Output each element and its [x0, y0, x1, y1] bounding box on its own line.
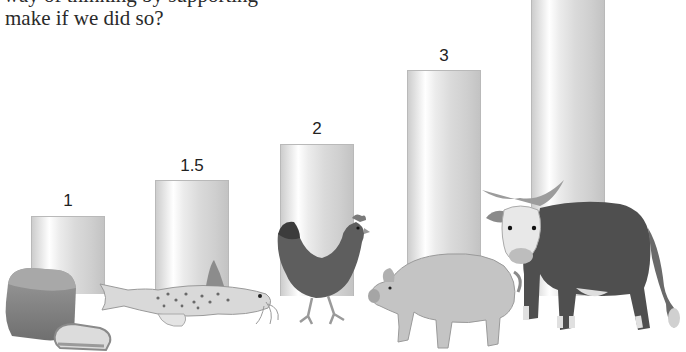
catfish-icon	[98, 258, 283, 330]
bar-value-label: 1	[31, 192, 105, 210]
chicken-icon	[272, 208, 372, 330]
bar-value-label: 2	[280, 120, 354, 138]
question-text: make if we did so?	[5, 6, 164, 30]
bar-value-label: 3	[407, 47, 481, 65]
bar-value-label: 1.5	[155, 157, 229, 175]
cow-icon	[480, 178, 686, 338]
